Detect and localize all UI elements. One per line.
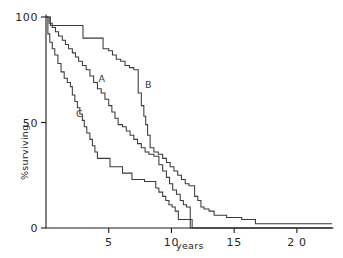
curve-label-C: C	[76, 108, 83, 119]
y-tick-label-100: 100	[15, 11, 38, 24]
curve-label-B: B	[145, 79, 152, 90]
x-tick-label-20: 2 0	[287, 236, 306, 249]
curve-label-A: A	[99, 73, 106, 84]
axes	[46, 15, 333, 228]
x-axis-title: years	[176, 240, 204, 251]
chart-svg: 510152 0050100 ABC years %surviving	[0, 0, 343, 258]
y-tick-label-0: 0	[30, 222, 38, 235]
y-axis-title: %surviving	[19, 125, 30, 180]
data-curves	[46, 17, 332, 228]
curve-A	[46, 17, 332, 228]
x-tick-label-15: 15	[227, 236, 242, 249]
x-tick-label-5: 5	[105, 236, 113, 249]
survival-curve-chart: 510152 0050100 ABC years %surviving	[0, 0, 343, 258]
curve-B	[46, 17, 332, 224]
axis-lines	[46, 15, 333, 228]
curve-C	[46, 17, 332, 228]
tick-labels: 510152 0050100	[15, 11, 306, 249]
